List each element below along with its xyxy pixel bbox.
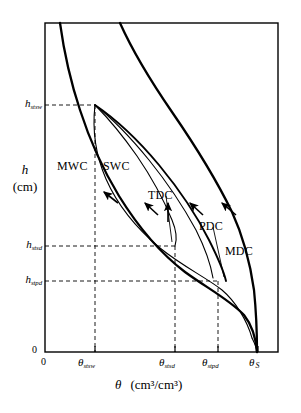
yaxis-title-var: h	[8, 163, 42, 176]
curve-label-pdc: PDC	[199, 220, 223, 232]
ytick-label-h-stpd: hstpd	[4, 274, 42, 287]
xaxis-title: θ(cm³/cm³)	[115, 378, 182, 391]
curve-label-mwc: MWC	[57, 160, 88, 172]
xaxis-origin-label: 0	[41, 357, 46, 367]
curve-label-swc: SWC	[103, 160, 130, 172]
xtick-label-theta-stsd: θstsd	[159, 357, 175, 370]
yaxis-title-units: (cm)	[6, 180, 44, 193]
plot-canvas	[0, 0, 301, 413]
xtick-label-theta-stsw: θstsw	[78, 357, 95, 370]
ytick-label-h-stsw: hstsw	[4, 98, 42, 111]
curve-label-tdc: TDC	[148, 189, 173, 201]
retention-curve-figure: hstsw hstsd hstpd 0 h (cm) 0 θstsw θstsd…	[0, 0, 301, 413]
arrow-swc	[145, 203, 158, 215]
axis-ticks	[95, 346, 258, 352]
curve-label-mdc: MDC	[225, 245, 253, 257]
yaxis-origin-label: 0	[32, 345, 37, 355]
xtick-label-theta-stpd: θstpd	[202, 357, 219, 370]
xaxis-units: (cm³/cm³)	[121, 377, 182, 392]
curve-mdc	[120, 23, 257, 352]
ytick-label-h-stsd: hstsd	[4, 239, 42, 252]
xtick-label-theta-s: θS	[249, 357, 259, 370]
